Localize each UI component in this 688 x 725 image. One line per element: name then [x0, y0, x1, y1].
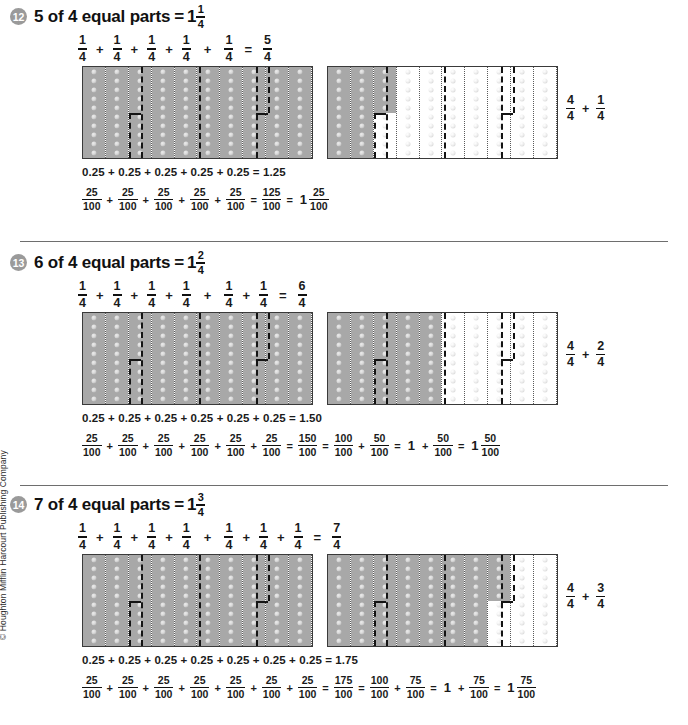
fraction-denominator: 100 [190, 689, 210, 700]
grid-area: 44+14 [0, 66, 688, 166]
grid-cell [289, 131, 311, 140]
fraction-denominator: 4 [259, 539, 268, 552]
fraction-denominator: 100 [226, 447, 246, 458]
fraction-numerator: 7 [332, 522, 341, 535]
grid-cell [289, 94, 311, 103]
plus-sign: + [107, 194, 113, 206]
grid-cell [465, 601, 487, 610]
fraction: 14 [259, 280, 268, 309]
grid-cell [220, 573, 242, 582]
problem-statement: 6 of 4 equal parts [34, 252, 170, 274]
grid-cell [289, 340, 311, 349]
grid-sum-label: 44+34 [566, 582, 605, 611]
left-grid-wrapper [82, 312, 313, 405]
fraction-numerator: 4 [566, 94, 575, 107]
fraction-denominator: 4 [197, 507, 205, 518]
grid-cell [465, 94, 487, 103]
grid-cell [442, 131, 464, 140]
grid-cell [442, 359, 464, 368]
grid-cell [83, 619, 105, 628]
plus-sign: + [131, 288, 139, 303]
grid-cell [328, 555, 350, 564]
grid-cell [220, 122, 242, 131]
grid-cell [129, 149, 151, 158]
grid-cell [175, 331, 197, 340]
grid-cell [420, 582, 442, 591]
grid-cell [220, 359, 242, 368]
quarter-separator [199, 67, 201, 158]
grid-cell [243, 610, 265, 619]
fraction-numerator: 25 [85, 675, 99, 686]
grid-cell [197, 628, 219, 637]
plus-sign: + [204, 530, 212, 545]
grid-column [328, 555, 351, 646]
grid-cell [197, 322, 219, 331]
grid-cell [465, 564, 487, 573]
grid-cell [374, 582, 396, 591]
quarter-step-segment [129, 359, 131, 404]
fraction: 14 [147, 280, 156, 309]
grid-cell [420, 386, 442, 395]
fraction-denominator: 100 [226, 201, 246, 212]
grid-cell [374, 610, 396, 619]
grid-column [152, 67, 175, 158]
plus-sign: + [96, 42, 104, 57]
grid-cell [266, 601, 288, 610]
grid-cell [488, 94, 510, 103]
grid-cell [197, 637, 219, 646]
grid-cell [197, 582, 219, 591]
grid-cell [397, 322, 419, 331]
fraction: 25100 [154, 187, 174, 212]
hundredths-equation: 25100+25100+25100+25100+25100=125100=125… [82, 187, 688, 212]
quarter-step-segment [374, 601, 376, 646]
fraction: 50100 [433, 433, 453, 458]
grid-cell [175, 76, 197, 85]
grid-cell [106, 313, 128, 322]
fraction: 25100 [226, 675, 246, 700]
fraction: 14 [196, 4, 205, 30]
grid-cell [106, 131, 128, 140]
grid-column [328, 67, 351, 158]
fraction-numerator: 1 [224, 34, 233, 47]
fraction: 75100 [517, 675, 537, 700]
grid-cell [197, 331, 219, 340]
page-title: 6 of 4 equal parts=124 [34, 250, 205, 276]
grid-cell [420, 122, 442, 131]
fraction-numerator: 150 [298, 433, 318, 444]
grid-cell [83, 76, 105, 85]
grid-cell [289, 601, 311, 610]
quarter-separator [141, 555, 143, 646]
grid-cell [220, 386, 242, 395]
fraction: 25100 [262, 433, 282, 458]
grid-cell [511, 619, 533, 628]
grid-cell [220, 610, 242, 619]
grid-cell [420, 591, 442, 600]
grid-cell [465, 377, 487, 386]
grid-cell [175, 85, 197, 94]
fraction-denominator: 4 [78, 51, 87, 64]
grid-cell [351, 349, 373, 358]
fraction-denominator: 100 [190, 447, 210, 458]
plus-sign: + [178, 194, 184, 206]
whole-part: 1 [187, 494, 196, 516]
fraction-numerator: 50 [373, 433, 387, 444]
grid-cell [397, 610, 419, 619]
fraction-numerator: 25 [312, 187, 326, 198]
grid-cell [175, 573, 197, 582]
grid-cell [220, 349, 242, 358]
decimal-equation: 0.25 + 0.25 + 0.25 + 0.25 + 0.25 + 0.25 … [82, 654, 688, 666]
grid-cell [129, 67, 151, 76]
grid-cell [420, 76, 442, 85]
grid-cell [152, 637, 174, 646]
fraction: 14 [78, 34, 87, 63]
grid-cell [442, 85, 464, 94]
grid-cell [243, 573, 265, 582]
mixed-number-result: 125100 [298, 187, 329, 212]
fraction-numerator: 4 [566, 340, 575, 353]
grid-cell [420, 313, 442, 322]
decimal-equation: 0.25 + 0.25 + 0.25 + 0.25 + 0.25 = 1.25 [82, 166, 688, 178]
grid-cell [175, 555, 197, 564]
grid-cell [289, 619, 311, 628]
plus-sign: + [286, 682, 292, 694]
grid-cell [83, 573, 105, 582]
